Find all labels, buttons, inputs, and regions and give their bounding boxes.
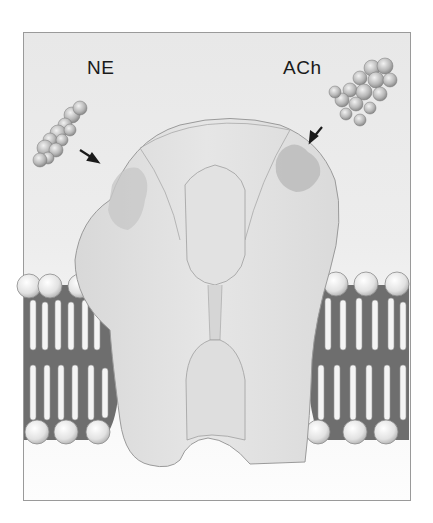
arrow-ne bbox=[80, 150, 98, 162]
receptor-diagram bbox=[0, 0, 433, 523]
ach-molecule bbox=[329, 58, 397, 126]
ne-label: NE bbox=[87, 57, 114, 79]
ach-label: ACh bbox=[283, 57, 321, 79]
arrow-ach bbox=[310, 127, 322, 142]
ne-molecule bbox=[33, 101, 87, 167]
